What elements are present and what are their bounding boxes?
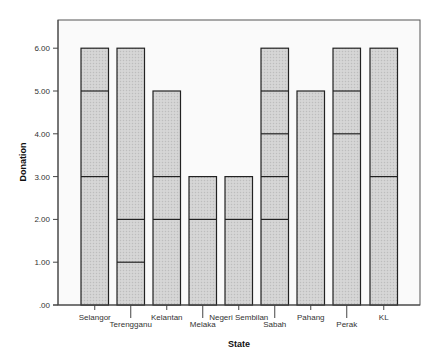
bar-sabah: [261, 48, 289, 305]
y-tick-label: 4.00: [34, 130, 50, 139]
x-tick-label: Perak: [336, 320, 358, 329]
bar-kl: [370, 48, 398, 305]
bar-negeri-sembilan: [225, 177, 253, 305]
x-tick-label: Selangor: [79, 313, 111, 322]
x-tick-label: KL: [379, 313, 389, 322]
y-axis-title: Donation: [18, 143, 28, 182]
x-tick-label: Pahang: [297, 313, 325, 322]
bar-chart: .001.002.003.004.005.006.00 SelangorTere…: [0, 0, 436, 361]
y-tick-label: 5.00: [34, 87, 50, 96]
y-tick-label: 3.00: [34, 173, 50, 182]
y-axis: .001.002.003.004.005.006.00: [34, 20, 58, 310]
x-axis-title: State: [228, 339, 250, 349]
x-tick-label: Sabah: [263, 320, 286, 329]
y-tick-label: 6.00: [34, 44, 50, 53]
x-tick-label: Terengganu: [110, 320, 152, 329]
y-tick-label: .00: [39, 301, 51, 310]
x-tick-label: Kelantan: [151, 313, 183, 322]
bar-perak: [333, 48, 361, 305]
bar-selangor: [81, 48, 109, 305]
y-tick-label: 2.00: [34, 215, 50, 224]
y-tick-label: 1.00: [34, 258, 50, 267]
bar-pahang: [297, 91, 325, 305]
bar-kelantan: [153, 91, 181, 305]
x-tick-label: Negeri Sembilan: [209, 313, 268, 322]
bar-terengganu: [117, 48, 145, 305]
bar-melaka: [189, 177, 217, 305]
x-axis: SelangorTerengganuKelantanMelakaNegeri S…: [53, 305, 420, 329]
